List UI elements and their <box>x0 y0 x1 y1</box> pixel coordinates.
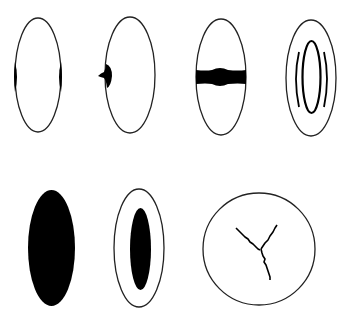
figure-5-opaque <box>28 190 75 306</box>
diagram-svg <box>0 0 352 321</box>
diagram-canvas <box>0 0 352 321</box>
